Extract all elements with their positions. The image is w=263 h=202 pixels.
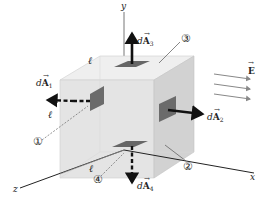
- field-arrow: [214, 74, 250, 79]
- cube-front-face: [60, 80, 154, 178]
- y-axis-label: y: [120, 1, 127, 11]
- marker-4: ④: [93, 173, 103, 186]
- dA2-label: dA2 →: [207, 106, 224, 123]
- svg-text:→: →: [144, 175, 150, 183]
- svg-text:E: E: [248, 66, 255, 76]
- field-arrow: [214, 84, 250, 89]
- svg-text:→: →: [214, 106, 220, 114]
- dA1-label: dA1 →: [36, 72, 53, 89]
- svg-text:→: →: [43, 72, 49, 80]
- svg-text:→: →: [144, 30, 150, 38]
- edge-label-top: ℓ: [88, 55, 92, 66]
- field-label: E →: [248, 59, 255, 76]
- edge-label-left: ℓ: [48, 109, 52, 120]
- z-axis-label: z: [12, 184, 18, 194]
- x-axis-label: x: [250, 172, 255, 182]
- dA3-label: dA3 →: [137, 30, 154, 47]
- field-arrow: [214, 94, 250, 99]
- marker-1: ①: [33, 135, 43, 148]
- marker-3: ③: [181, 32, 191, 45]
- svg-text:→: →: [248, 59, 254, 67]
- marker-2: ②: [183, 160, 193, 173]
- gauss-cube-diagram: y x z ℓ ℓ ℓ dA1 → dA2 → dA3 → dA4 → E → …: [0, 0, 263, 202]
